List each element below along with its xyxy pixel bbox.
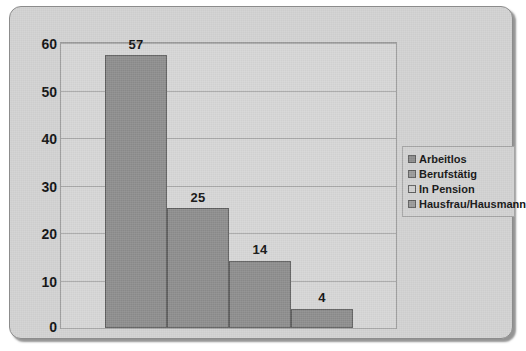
- legend-label-arbeitlos: Arbeitlos: [419, 153, 467, 165]
- legend-swatch-icon: [408, 185, 416, 193]
- bar-slot-hausfrau-hausmann: 4: [291, 43, 353, 328]
- y-tick-label-20: 20: [19, 226, 57, 242]
- plot-area: 57 25 14 4: [60, 42, 397, 329]
- bar-slot-arbeitlos: 57: [105, 43, 167, 328]
- y-tick-label-60: 60: [19, 36, 57, 52]
- legend-label-berufstatig: Berufstätig: [419, 168, 477, 180]
- legend-swatch-icon: [408, 155, 416, 163]
- chart-legend: Arbeitlos Berufstätig In Pension Hausfra…: [402, 146, 515, 217]
- y-tick-label-0: 0: [19, 319, 57, 335]
- bar-slot-in-pension: 14: [229, 43, 291, 328]
- legend-label-in-pension: In Pension: [419, 183, 475, 195]
- y-tick-label-10: 10: [19, 274, 57, 290]
- bar-value-berufstatig: 25: [167, 190, 229, 205]
- gridline-0: [61, 328, 396, 329]
- y-tick-label-50: 50: [19, 84, 57, 100]
- bars-layer: 57 25 14 4: [105, 43, 354, 328]
- bar-berufstatig[interactable]: [167, 208, 229, 328]
- y-tick-label-40: 40: [19, 131, 57, 147]
- legend-item-in-pension[interactable]: In Pension: [408, 182, 510, 196]
- bar-hausfrau-hausmann[interactable]: [291, 309, 353, 328]
- y-axis: 60 50 40 30 20 10 0: [19, 42, 57, 329]
- bar-value-arbeitlos: 57: [105, 37, 167, 52]
- bar-value-hausfrau-hausmann: 4: [291, 290, 353, 305]
- bar-arbeitlos[interactable]: [105, 55, 167, 328]
- legend-label-hausfrau-hausmann: Hausfrau/Hausmann: [419, 198, 526, 210]
- bar-value-in-pension: 14: [229, 242, 291, 257]
- legend-swatch-icon: [408, 200, 416, 208]
- bar-slot-berufstatig: 25: [167, 43, 229, 328]
- chart-frame: 57 25 14 4 60 50 40 30 20 10 0: [9, 6, 513, 339]
- legend-item-arbeitlos[interactable]: Arbeitlos: [408, 152, 510, 166]
- bar-in-pension[interactable]: [229, 261, 291, 328]
- legend-swatch-icon: [408, 170, 416, 178]
- legend-item-berufstatig[interactable]: Berufstätig: [408, 167, 510, 181]
- y-tick-label-30: 30: [19, 179, 57, 195]
- legend-item-hausfrau-hausmann[interactable]: Hausfrau/Hausmann: [408, 197, 510, 211]
